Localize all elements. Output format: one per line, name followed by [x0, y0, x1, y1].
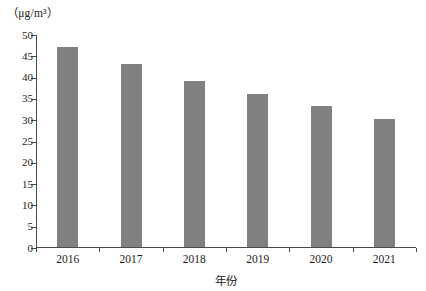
x-category-label: 2021: [353, 252, 416, 266]
bar: [311, 106, 332, 247]
y-axis-unit-label: （μg/m³）: [7, 6, 58, 20]
x-category-label: 2020: [289, 252, 352, 266]
x-category-label: 2018: [163, 252, 226, 266]
x-tick-mark: [416, 248, 417, 252]
y-tick-label: 10: [22, 198, 33, 212]
bar: [57, 47, 78, 247]
bar: [374, 119, 395, 247]
y-tick-label: 40: [22, 70, 33, 84]
y-tick-label: 30: [22, 113, 33, 127]
bar-chart: （μg/m³） 05101520253035404550 20162017201…: [0, 0, 426, 291]
y-tick-label: 35: [22, 91, 33, 105]
bar: [247, 94, 268, 247]
bar: [121, 64, 142, 247]
x-category-label: 2017: [99, 252, 162, 266]
y-tick-label: 0: [28, 241, 34, 255]
bar: [184, 81, 205, 247]
x-category-label: 2019: [226, 252, 289, 266]
plot-area: 05101520253035404550 2016201720182019202…: [36, 35, 416, 248]
y-tick-label: 25: [22, 134, 33, 148]
x-axis-title: 年份: [36, 274, 416, 288]
y-tick-label: 15: [22, 177, 33, 191]
y-tick-label: 45: [22, 49, 33, 63]
y-tick-label: 20: [22, 155, 33, 169]
y-tick-label: 50: [22, 28, 33, 42]
x-category-label: 2016: [36, 252, 99, 266]
y-tick-label: 5: [28, 219, 34, 233]
y-axis-line: [36, 35, 37, 248]
